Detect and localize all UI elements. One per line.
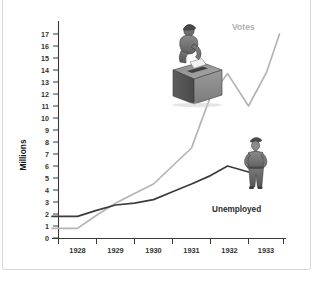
series-line-votes <box>52 34 280 228</box>
voter-hat <box>184 25 196 31</box>
x-axis-tick-labels: 1928 1929 1930 1931 1932 1933 <box>69 246 274 255</box>
x-tick-label: 1928 <box>69 246 85 255</box>
unemployed-right-boot <box>258 186 263 189</box>
y-tick-label: 4 <box>45 186 49 195</box>
y-tick-label: 6 <box>45 162 49 171</box>
series-label-unemployed: Unemployed <box>212 205 261 214</box>
x-tick-label: 1931 <box>183 246 199 255</box>
chart-figure: 0 1 2 3 4 5 6 7 8 9 10 11 12 13 14 15 16… <box>0 0 313 282</box>
y-axis-title: Millions <box>18 139 28 171</box>
y-tick-label: 10 <box>41 114 49 123</box>
y-tick-label: 9 <box>45 126 49 135</box>
series-label-votes: Votes <box>232 22 255 32</box>
y-tick-label: 11 <box>41 102 49 111</box>
y-tick-label: 13 <box>41 78 49 87</box>
y-tick-label: 7 <box>45 150 49 159</box>
y-tick-label: 16 <box>41 42 49 51</box>
voter-legs <box>179 51 188 63</box>
y-tick-label: 5 <box>45 174 49 183</box>
y-axis-ticks <box>53 34 59 238</box>
y-tick-label: 17 <box>41 30 49 39</box>
x-axis-ticks <box>59 239 284 245</box>
x-tick-label: 1933 <box>258 246 274 255</box>
y-tick-label: 8 <box>45 138 49 147</box>
y-tick-label: 1 <box>45 222 49 231</box>
chart-plot-area: 0 1 2 3 4 5 6 7 8 9 10 11 12 13 14 15 16… <box>0 0 313 282</box>
y-tick-label: 15 <box>41 54 49 63</box>
x-tick-label: 1932 <box>221 246 237 255</box>
y-tick-label: 3 <box>45 198 49 207</box>
unemployed-trousers <box>249 168 264 187</box>
y-tick-label: 2 <box>45 210 49 219</box>
x-tick-label: 1929 <box>107 246 123 255</box>
unemployed-left-boot <box>249 186 254 189</box>
y-axis-tick-labels: 0 1 2 3 4 5 6 7 8 9 10 11 12 13 14 15 16… <box>41 30 49 243</box>
ballot-box-voter-illustration <box>172 25 222 108</box>
x-tick-label: 1930 <box>145 246 161 255</box>
y-tick-label: 14 <box>41 66 49 75</box>
unemployed-head <box>252 141 260 150</box>
ballot-box-shadow <box>172 103 222 107</box>
unemployed-torso <box>247 151 264 169</box>
y-tick-label: 12 <box>41 90 49 99</box>
line-chart-svg: 0 1 2 3 4 5 6 7 8 9 10 11 12 13 14 15 16… <box>0 0 313 282</box>
unemployed-man-illustration <box>245 137 267 189</box>
y-tick-label: 0 <box>45 234 49 243</box>
